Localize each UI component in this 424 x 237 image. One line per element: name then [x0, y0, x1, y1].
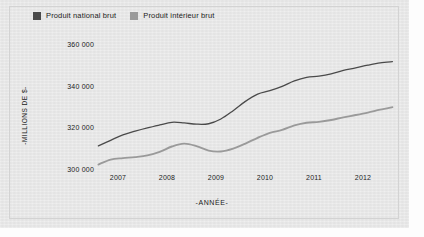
y-axis-title: -MILLIONS DE $- — [21, 76, 28, 156]
legend-label-pnb: Produit national brut — [46, 11, 116, 20]
line-series-produit-national-brut — [98, 107, 392, 164]
legend-swatch-icon-pib — [130, 12, 138, 20]
y-tick-label: 340 000 — [42, 83, 94, 90]
chart-screenshot: Produit national brut Produit intérieur … — [0, 0, 424, 237]
line-series-produit-interieur-brut — [98, 62, 392, 146]
legend-item-pib[interactable]: Produit intérieur brut — [130, 11, 214, 20]
legend-label-pib: Produit intérieur brut — [143, 11, 214, 20]
x-tick-label: 2008 — [147, 174, 187, 181]
legend-swatch-icon-pnb — [33, 12, 41, 20]
y-tick-label: 320 000 — [42, 124, 94, 131]
x-axis-title: -ANNÉE- — [0, 199, 424, 206]
x-tick-label: 2010 — [245, 174, 285, 181]
x-tick-label: 2009 — [196, 174, 236, 181]
x-tick-label: 2011 — [294, 174, 334, 181]
legend-item-pnb[interactable]: Produit national brut — [33, 11, 116, 20]
x-tick-label: 2012 — [343, 174, 383, 181]
y-tick-label: 360 000 — [42, 41, 94, 48]
x-tick-label: 2007 — [98, 174, 138, 181]
y-tick-label: 300 000 — [42, 166, 94, 173]
chart-legend: Produit national brut Produit intérieur … — [33, 11, 215, 20]
